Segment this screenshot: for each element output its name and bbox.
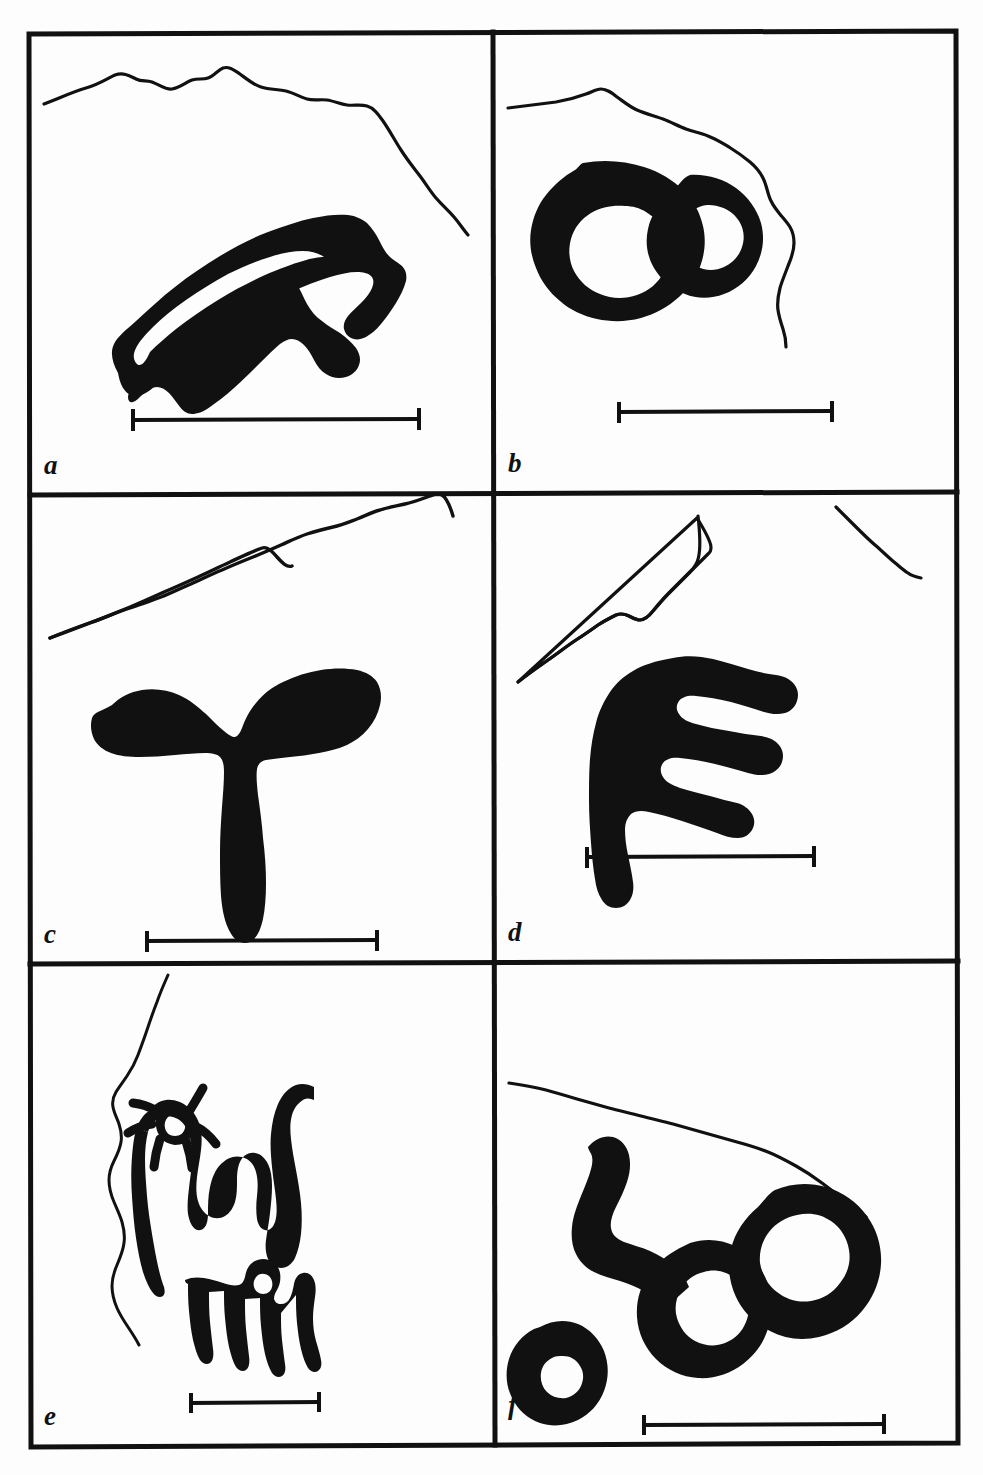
figure-artwork bbox=[0, 0, 983, 1475]
figure-root: a b c d e f bbox=[0, 0, 983, 1475]
panel-label-c: c bbox=[44, 921, 56, 948]
figure-caption bbox=[0, 1461, 983, 1475]
panel-label-a: a bbox=[44, 452, 58, 479]
panel-label-e: e bbox=[44, 1403, 56, 1430]
panel-label-f: f bbox=[508, 1392, 517, 1419]
panel-label-d: d bbox=[508, 919, 522, 946]
panel-label-b: b bbox=[508, 450, 522, 477]
